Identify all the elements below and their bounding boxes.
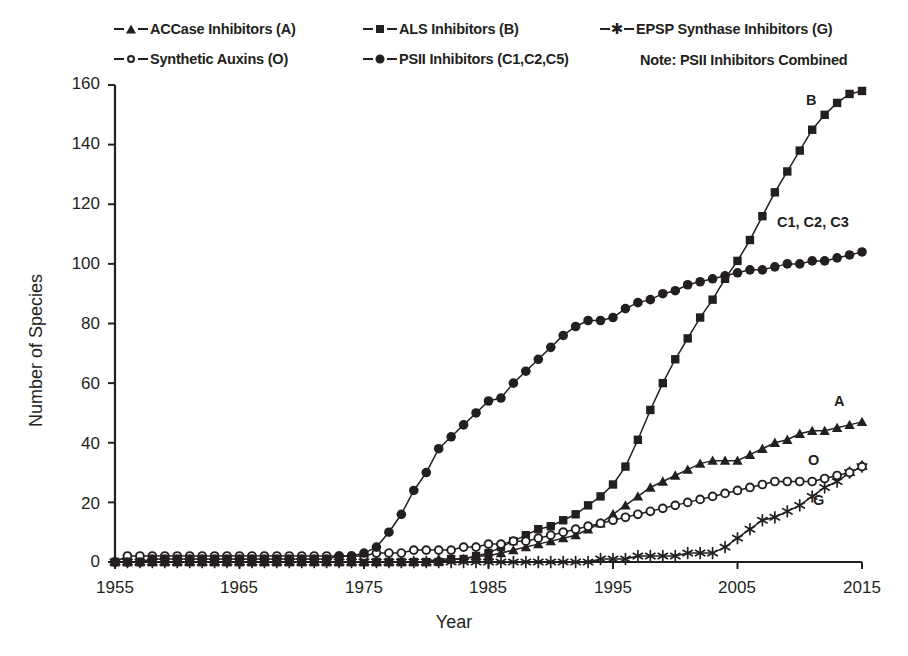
x-tick-2005: 2005 [701, 578, 773, 598]
x-tick-1955: 1955 [79, 578, 151, 598]
y-axis-title: Number of Species [26, 274, 47, 427]
x-axis-title: Year [0, 612, 908, 633]
series-annotation-a: A [834, 393, 844, 409]
y-tick-0: 0 [38, 552, 100, 572]
plot-area [0, 0, 908, 656]
y-tick-60: 60 [38, 374, 100, 394]
x-tick-1975: 1975 [328, 578, 400, 598]
y-tick-80: 80 [38, 314, 100, 334]
y-tick-40: 40 [38, 434, 100, 454]
x-tick-1995: 1995 [577, 578, 649, 598]
y-tick-160: 160 [38, 74, 100, 94]
y-tick-100: 100 [38, 254, 100, 274]
x-tick-1985: 1985 [452, 578, 524, 598]
y-tick-20: 20 [38, 494, 100, 514]
x-tick-2015: 2015 [826, 578, 898, 598]
series-b [111, 87, 866, 566]
series-annotation-o: O [808, 452, 819, 468]
series-c1-c2-c3 [110, 247, 867, 567]
y-tick-120: 120 [38, 194, 100, 214]
x-tick-1965: 1965 [203, 578, 275, 598]
y-tick-140: 140 [38, 134, 100, 154]
series-annotation-c: C1, C2, C3 [777, 214, 849, 230]
series-annotation-b: B [806, 92, 816, 108]
series-annotation-g: G [813, 492, 824, 508]
herbicide-resistance-chart: ACCase Inhibitors (A) ALS Inhibitors (B)… [0, 0, 908, 656]
